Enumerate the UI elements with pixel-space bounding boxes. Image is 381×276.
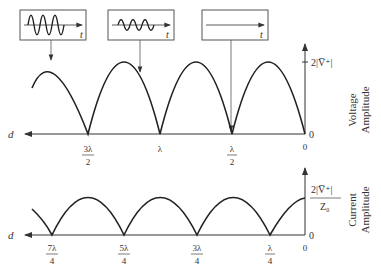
svg-text:2: 2	[86, 157, 91, 167]
svg-text:4: 4	[50, 256, 55, 266]
svg-text:t: t	[80, 29, 83, 40]
svg-text:0: 0	[303, 142, 308, 152]
svg-text:0: 0	[303, 243, 308, 253]
svg-text:2: 2	[230, 157, 235, 167]
svg-text:4: 4	[195, 256, 200, 266]
svg-text:Amplitude: Amplitude	[359, 86, 371, 133]
svg-text:0: 0	[309, 129, 314, 140]
svg-text:d: d	[8, 128, 14, 140]
svg-text:λ: λ	[268, 243, 273, 253]
svg-text:t: t	[260, 29, 263, 40]
svg-text:Amplitude: Amplitude	[359, 186, 371, 233]
svg-text:3λ: 3λ	[193, 243, 203, 253]
svg-text:7λ: 7λ	[48, 243, 58, 253]
svg-text:2|V̅⁺|: 2|V̅⁺|	[311, 184, 333, 195]
svg-text:2|V̅⁺|: 2|V̅⁺|	[311, 57, 333, 68]
svg-text:3λ: 3λ	[84, 144, 94, 154]
inset-large-oscillation: t	[20, 10, 86, 40]
svg-text:4: 4	[122, 256, 127, 266]
current-plot: d 2|V̅⁺| Z₀ 0 7λ 4 5λ 4 3λ 4 λ 4 0 Curre…	[8, 168, 371, 266]
voltage-plot: d 2|V̅⁺| 0 3λ 2 λ λ 2 0 Voltage Amplitud…	[8, 44, 371, 167]
svg-text:5λ: 5λ	[120, 243, 130, 253]
svg-text:4: 4	[268, 256, 273, 266]
svg-text:Current: Current	[346, 193, 358, 227]
svg-text:d: d	[8, 229, 14, 241]
inset-medium-oscillation: t	[108, 10, 174, 40]
svg-text:λ: λ	[158, 144, 163, 154]
svg-text:Voltage: Voltage	[346, 93, 358, 127]
inset-flat: t	[202, 10, 268, 40]
standing-wave-diagram: t t t d 2|V̅⁺| 0 3λ 2 λ λ 2 0 Voltage Am…	[0, 0, 381, 276]
svg-text:λ: λ	[230, 144, 235, 154]
svg-text:0: 0	[309, 230, 314, 241]
svg-text:t: t	[166, 29, 169, 40]
svg-text:Z₀: Z₀	[320, 201, 330, 212]
